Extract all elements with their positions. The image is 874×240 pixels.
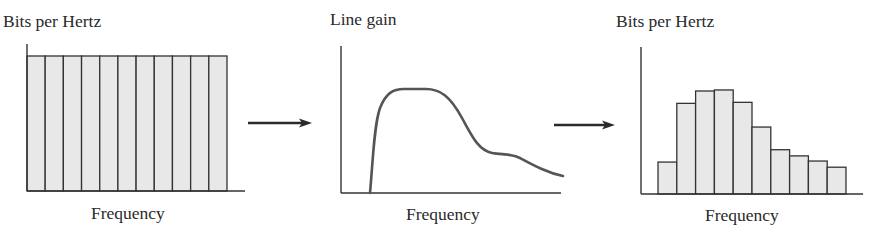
bar <box>771 150 790 194</box>
bar <box>136 56 154 191</box>
arrow-right-icon <box>248 119 312 128</box>
uniform-bit-allocation-chart <box>27 44 245 191</box>
bar <box>790 156 809 194</box>
bar <box>82 56 100 191</box>
bar <box>118 56 136 191</box>
bar <box>714 90 733 194</box>
adapted-bit-allocation-chart <box>641 47 863 194</box>
bar <box>45 56 63 191</box>
panel3-ylabel: Bits per Hertz <box>616 13 714 31</box>
bar <box>100 56 118 191</box>
bar <box>677 103 696 194</box>
panel2-xlabel: Frequency <box>406 206 480 224</box>
bar <box>808 161 827 194</box>
panel3-xlabel: Frequency <box>705 207 779 225</box>
adaptive-bit-allocation-diagram: Bits per Hertz Frequency Line gain Frequ… <box>0 0 874 240</box>
adapted-bars <box>658 90 846 194</box>
bar <box>752 127 771 194</box>
bar <box>154 56 172 191</box>
bar <box>27 56 45 191</box>
arrow-right-icon <box>554 121 615 130</box>
bar <box>658 162 677 194</box>
bar <box>827 167 846 194</box>
bar <box>191 56 209 191</box>
bar <box>209 56 227 191</box>
bar <box>172 56 190 191</box>
panel2-ylabel: Line gain <box>330 11 397 29</box>
bar <box>696 91 715 194</box>
panel1-xlabel: Frequency <box>91 205 165 223</box>
bar <box>63 56 81 191</box>
uniform-bars <box>27 56 227 191</box>
panel1-ylabel: Bits per Hertz <box>3 13 101 31</box>
line-gain-chart <box>341 46 563 193</box>
line-gain-curve <box>370 89 563 193</box>
bar <box>733 102 752 194</box>
